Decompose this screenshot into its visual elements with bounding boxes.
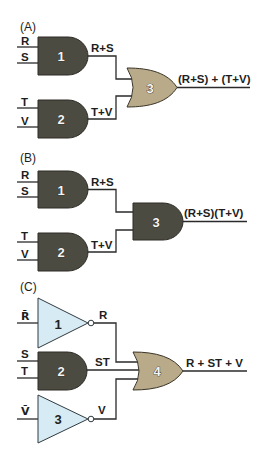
gate-number-1: 1	[57, 49, 64, 64]
gate-number-3: 3	[152, 215, 159, 230]
input-label-t: T	[21, 230, 28, 242]
gate-number-2: 2	[57, 112, 64, 127]
logic-gate-diagram: (A) R S T V R+S T+V 1 2 3 (R+S) + (T+V) …	[0, 0, 261, 456]
input-label-s: S	[21, 185, 29, 197]
wire-gate1-to-gate3	[87, 190, 136, 213]
wire-label-r-plus-s: R+S	[91, 176, 114, 188]
gate-number-1: 1	[54, 317, 61, 332]
wire-label-r: R	[99, 309, 108, 321]
wire-label-t-plus-v: T+V	[91, 239, 113, 251]
input-label-r-bar: R̄	[21, 310, 30, 323]
input-label-t: T	[21, 365, 28, 377]
input-label-v: V	[21, 248, 29, 260]
panel-b: (B) R S T V R+S T+V 1 2 3 (R+S)(T+V)	[17, 151, 247, 271]
wire-label-t-plus-v: T+V	[91, 106, 113, 118]
inversion-bubble	[88, 320, 94, 326]
input-label-s: S	[21, 51, 29, 63]
gate-number-4: 4	[153, 364, 161, 379]
output-label: R + ST + V	[186, 357, 243, 369]
wire-label-r-plus-s: R+S	[91, 42, 114, 54]
panel-label: (A)	[20, 20, 36, 34]
wire-label-st: ST	[95, 356, 110, 368]
input-label-v-bar: V̄	[21, 405, 30, 418]
input-label-s: S	[21, 348, 29, 360]
inversion-bubble	[88, 416, 94, 422]
input-label-r: R	[21, 169, 30, 181]
panel-c: (C) R̄ S T V̄ R ST V 1 2 3 4 R + ST + V	[17, 280, 247, 443]
input-label-r: R	[21, 35, 30, 47]
gate-number-2: 2	[57, 364, 64, 379]
input-label-v: V	[21, 115, 29, 127]
gate-number-1: 1	[57, 183, 64, 198]
panel-label: (B)	[20, 151, 36, 165]
gate-number-2: 2	[57, 245, 64, 260]
wire-gate1-to-gate3	[87, 56, 136, 79]
not-gate-1	[38, 298, 88, 348]
output-label: (R+S) + (T+V)	[178, 73, 251, 85]
output-label: (R+S)(T+V)	[184, 207, 244, 219]
gate-number-3: 3	[146, 81, 153, 96]
panel-label: (C)	[20, 280, 37, 294]
input-label-t: T	[21, 96, 28, 108]
wire-label-v: V	[98, 404, 106, 416]
panel-a: (A) R S T V R+S T+V 1 2 3 (R+S) + (T+V)	[17, 20, 251, 138]
gate-number-3: 3	[54, 412, 61, 427]
not-gate-3	[38, 395, 88, 443]
